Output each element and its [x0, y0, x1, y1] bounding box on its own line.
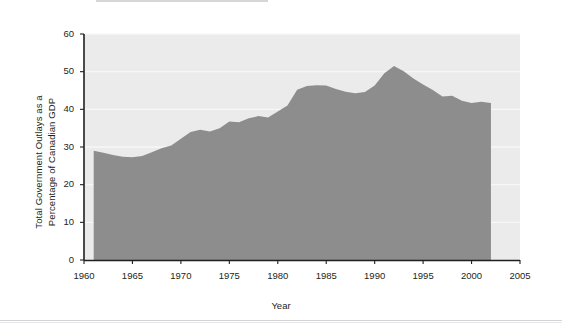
x-tick-label: 1985: [306, 270, 346, 281]
y-axis-title: Total Government Outlays as a Percentage…: [32, 42, 62, 282]
x-axis-title: Year: [0, 300, 562, 311]
y-axis-title-line-2: Percentage of Canadian GDP: [45, 42, 58, 282]
area-chart: [0, 0, 562, 332]
y-axis-title-line-1: Total Government Outlays as a: [32, 42, 45, 282]
x-tick-label: 1995: [403, 270, 443, 281]
x-tick-label: 1975: [209, 270, 249, 281]
x-tick-label: 1970: [161, 270, 201, 281]
footer-divider-shadow: [0, 322, 562, 323]
footer-divider: [0, 320, 562, 321]
x-tick-label: 2005: [500, 270, 540, 281]
x-tick-label: 1965: [112, 270, 152, 281]
x-tick-label: 1980: [258, 270, 298, 281]
x-tick-label: 2000: [452, 270, 492, 281]
y-tick-label: 60: [48, 28, 74, 39]
x-tick-label: 1960: [64, 270, 104, 281]
figure-container: 0102030405060 19601965197019751980198519…: [0, 0, 562, 332]
x-tick-label: 1990: [355, 270, 395, 281]
